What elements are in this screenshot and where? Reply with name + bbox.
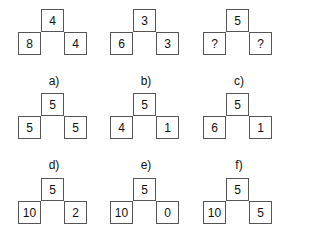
left-box: 8 [18,32,41,55]
option-b[interactable]: 5 4 1 [110,93,182,153]
option-label-b: b) [110,74,182,88]
top-box: 5 [226,178,249,201]
right-box: 3 [156,32,179,55]
option-f[interactable]: 5 10 5 [203,178,275,235]
right-box: 5 [64,116,87,139]
option-label-d: d) [18,158,90,172]
left-box: 6 [110,32,133,55]
top-box: 5 [226,9,249,32]
left-box: 4 [110,116,133,139]
top-box: 3 [133,9,156,32]
option-c[interactable]: 5 6 1 [203,93,275,153]
right-box: 4 [64,32,87,55]
top-box: 5 [226,93,249,116]
right-box: 5 [249,201,272,224]
right-box: 0 [156,201,179,224]
top-box: 5 [133,178,156,201]
option-label-c: c) [203,74,275,88]
left-box: 10 [203,201,226,224]
top-box: 5 [133,93,156,116]
top-box: 4 [41,9,64,32]
option-a[interactable]: 5 5 5 [18,93,90,153]
example-figure-2: 3 6 3 [110,9,182,69]
left-box-unknown: ? [203,32,226,55]
right-box: 1 [249,116,272,139]
option-d[interactable]: 5 10 2 [18,178,90,235]
left-box: 6 [203,116,226,139]
left-box: 10 [110,201,133,224]
left-box: 10 [18,201,41,224]
option-label-f: f) [203,158,275,172]
example-figure-1: 4 8 4 [18,9,90,69]
left-box: 5 [18,116,41,139]
option-label-e: e) [110,158,182,172]
right-box: 2 [64,201,87,224]
question-figure: 5 ? ? [203,9,275,69]
top-box: 5 [41,178,64,201]
option-e[interactable]: 5 10 0 [110,178,182,235]
top-box: 5 [41,93,64,116]
option-label-a: a) [18,74,90,88]
right-box-unknown: ? [249,32,272,55]
right-box: 1 [156,116,179,139]
